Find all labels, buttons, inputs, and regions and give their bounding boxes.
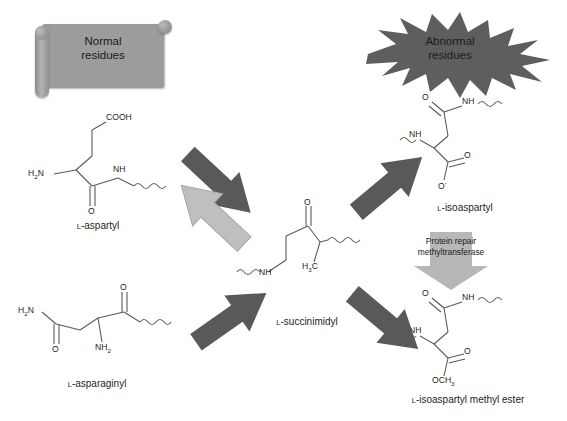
succinimidyl-carbonyl-oxygen-label: O: [304, 198, 311, 207]
succinimidyl-name-text: -succinimidyl: [281, 316, 338, 327]
abnormal-residues-line2: residues: [398, 48, 502, 62]
succinimidyl-ring-nitrogen-label: NH: [259, 268, 271, 277]
methyl-ester-name-label: L-isoaspartyl methyl ester: [370, 394, 566, 405]
normal-residues-line1: Normal: [42, 34, 164, 48]
methyl-ester-name-text: -isoaspartyl methyl ester: [416, 394, 524, 405]
enzyme-label: Protein repair methyltransferase: [398, 236, 504, 257]
enzyme-arrow-block: Protein repair methyltransferase: [392, 232, 510, 290]
aspartyl-name-text: -aspartyl: [81, 220, 119, 231]
arrow-succinimidyl-to-aspartyl: [166, 178, 258, 250]
isoaspartyl-alpha-amino-label: NH: [409, 130, 421, 139]
isoaspartyl-carboxylate-anion-label: O-: [438, 180, 447, 190]
scroll-right-knob: [158, 20, 172, 34]
asparaginyl-side-carbonyl-oxygen-label: O: [52, 345, 59, 354]
asparaginyl-side-amide-label: H2N: [18, 306, 34, 317]
arrow-asparaginyl-to-succinimidyl: [186, 282, 278, 352]
isoaspartyl-amide-nitrogen-label: NH: [462, 97, 474, 106]
succinimidyl-left-peptide-squiggle: [237, 270, 260, 275]
isoaspartyl-name-text: -isoaspartyl: [442, 202, 493, 213]
asparaginyl-peptide-squiggle: [140, 320, 171, 325]
methyl-ester-ester-oxygen-label: O: [464, 347, 471, 356]
aspartyl-amide-nitrogen-label: NH: [113, 165, 125, 174]
isoaspartyl-carboxylate-oxygen-label: O: [464, 151, 471, 160]
asparaginyl-name-label: L-asparaginyl: [32, 378, 162, 389]
diagram-canvas: Normal residues Abnormal residues: [0, 0, 567, 421]
asparaginyl-skeleton: [12, 282, 208, 378]
succinimidyl-right-peptide-squiggle: [328, 238, 360, 243]
aspartyl-amino-label: H2N: [28, 169, 44, 180]
isoaspartyl-c-term-squiggle: [478, 102, 502, 107]
abnormal-residues-callout: Abnormal residues: [356, 8, 552, 100]
structure-asparaginyl: H2N O NH2 O L-asparaginyl: [12, 282, 208, 402]
asparaginyl-name-text: -asparaginyl: [72, 378, 126, 389]
aspartyl-name-label: L-aspartyl: [38, 220, 158, 231]
succinimidyl-methyl-label: H3C: [302, 262, 318, 273]
aspartyl-carboxyl-label: COOH: [106, 113, 132, 122]
normal-residues-label: Normal residues: [42, 34, 164, 62]
enzyme-label-line2: methyltransferase: [398, 247, 504, 258]
methyl-ester-c-term-squiggle: [478, 298, 502, 303]
asparaginyl-backbone-carbonyl-oxygen-label: O: [120, 283, 127, 292]
arrow-succinimidyl-to-isoaspartyl: [344, 148, 436, 220]
abnormal-residues-line1: Abnormal: [398, 34, 502, 48]
asparaginyl-alpha-amino-label: NH2: [95, 343, 111, 354]
arrow-succinimidyl-to-methyl-ester: [340, 286, 432, 358]
isoaspartyl-carbonyl-oxygen-label: O: [422, 93, 429, 102]
abnormal-residues-label: Abnormal residues: [398, 34, 502, 62]
methyl-ester-amide-nitrogen-label: NH: [462, 293, 474, 302]
aspartyl-carbonyl-oxygen-label: O: [88, 207, 95, 216]
enzyme-label-line1: Protein repair: [398, 236, 504, 247]
methoxy-group-label: OCH3: [432, 376, 455, 387]
normal-residues-line2: residues: [42, 48, 164, 62]
normal-residues-callout: Normal residues: [28, 18, 173, 100]
aspartyl-peptide-squiggle: [134, 184, 166, 189]
